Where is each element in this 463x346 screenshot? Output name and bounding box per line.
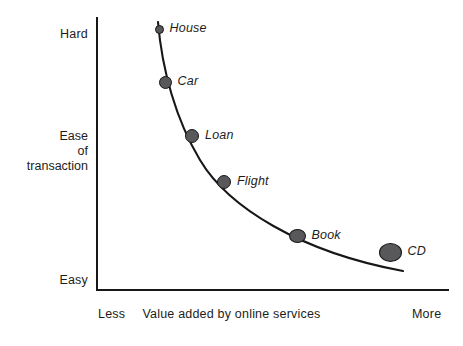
data-point-marker — [379, 243, 402, 262]
data-point-label: House — [170, 21, 207, 35]
x-axis-title: Value added by online services — [0, 307, 463, 321]
data-point-label: Flight — [237, 174, 269, 188]
data-point-marker — [155, 25, 164, 34]
data-point-label: Loan — [205, 128, 234, 142]
data-point-label: Book — [312, 228, 341, 242]
x-axis-line — [96, 289, 449, 291]
y-axis-min-tick-label: Easy — [59, 273, 88, 287]
y-axis-title-line-1: Ease — [0, 129, 88, 144]
y-axis-max-tick-label: Hard — [60, 27, 88, 41]
data-point-label: Car — [178, 74, 199, 88]
data-point-marker — [185, 129, 199, 143]
data-point-marker — [217, 175, 231, 189]
data-point-marker — [159, 76, 172, 89]
chart-container: Hard Easy Ease of transaction Less More … — [0, 0, 463, 346]
y-axis-line — [96, 17, 98, 291]
y-axis-title-line-2: of — [0, 144, 88, 159]
data-point-label: CD — [408, 244, 426, 258]
data-point-marker — [289, 229, 306, 243]
y-axis-title-line-3: transaction — [0, 159, 88, 174]
y-axis-title: Ease of transaction — [0, 129, 88, 174]
